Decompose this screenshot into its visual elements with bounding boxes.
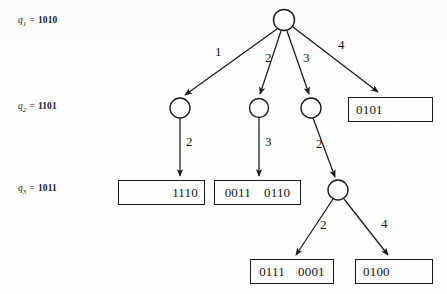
edge-label-root-n2: 2	[265, 50, 272, 66]
leaf-box-0111-0001[interactable]: 0111 0001	[250, 259, 334, 284]
leaf-value: 0011	[225, 185, 251, 201]
edge-label-n2-box3: 3	[265, 134, 272, 150]
edge-label-n4-box4: 2	[320, 217, 327, 233]
leaf-box-0100[interactable]: 0100	[355, 259, 433, 284]
node-root[interactable]	[274, 10, 295, 31]
tree-diagram-canvas	[0, 0, 447, 294]
node-n1[interactable]	[170, 98, 190, 118]
leaf-value: 0110	[264, 185, 290, 201]
edge-label-root-n3: 3	[303, 50, 310, 66]
leaf-value: 0100	[363, 264, 390, 280]
state-label-q3-equals: =	[29, 183, 34, 193]
edge-label-root-n1: 1	[215, 44, 222, 60]
leaf-value: 0111	[259, 264, 285, 280]
state-label-q1: q1=1010	[18, 15, 57, 28]
leaf-value: 1110	[172, 185, 198, 201]
leaf-value: 0101	[356, 102, 383, 118]
leaf-box-0101[interactable]: 0101	[348, 97, 433, 122]
node-n2[interactable]	[250, 99, 269, 118]
leaf-value: 0001	[298, 264, 325, 280]
state-label-q3-subscript: 3	[23, 188, 27, 196]
state-label-q3: q3=1011	[18, 183, 57, 196]
figure-root: q1=1010 q2=1101 q3=1011 1 2 3 4 2 3 2 2 …	[0, 0, 447, 294]
state-label-q1-subscript: 1	[23, 20, 27, 28]
edge-label-root-box1: 4	[338, 37, 345, 53]
state-label-q3-value: 1011	[38, 183, 57, 193]
leaf-box-0011-0110[interactable]: 0011 0110	[214, 180, 301, 205]
node-n3[interactable]	[301, 98, 321, 118]
edge-label-n4-box5: 4	[381, 216, 388, 232]
node-n4[interactable]	[328, 180, 348, 200]
state-label-q2-subscript: 2	[23, 106, 27, 114]
edge-label-n3-n4: 2	[316, 136, 323, 152]
state-label-q2-value: 1101	[38, 101, 57, 111]
edge-n4-box4	[296, 199, 333, 255]
state-label-q2: q2=1101	[18, 101, 57, 114]
state-label-q2-equals: =	[29, 101, 34, 111]
state-label-q1-equals: =	[29, 15, 34, 25]
edge-label-n1-box2: 2	[186, 134, 193, 150]
state-label-q1-value: 1010	[38, 15, 57, 25]
leaf-box-1110[interactable]: 1110	[118, 180, 205, 205]
